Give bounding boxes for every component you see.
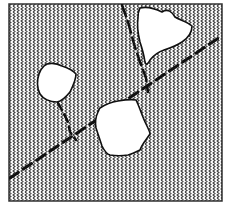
diagram-canvas xyxy=(0,0,232,206)
crack-diagram xyxy=(0,0,232,206)
